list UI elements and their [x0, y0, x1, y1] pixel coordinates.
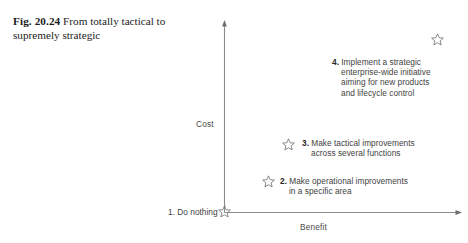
data-point-label-4-line-3: aiming for new products: [332, 77, 431, 87]
star-icon: [262, 175, 275, 188]
star-marker-2[interactable]: [262, 175, 275, 188]
star-icon: [431, 33, 444, 46]
data-point-label-1-line-1: 1. Do nothing: [168, 207, 218, 217]
data-point-label-4-line-1: 4. Implement a strategic: [332, 57, 431, 67]
star-marker-3[interactable]: [282, 138, 295, 151]
star-marker-4[interactable]: [431, 33, 444, 46]
data-point-label-2-text: Make operational improvements: [289, 176, 408, 186]
star-icon: [218, 205, 231, 218]
data-point-number-3: 3.: [302, 138, 309, 148]
star-icon: [282, 138, 295, 151]
star-marker-1[interactable]: [218, 205, 231, 218]
data-point-number-4: 4.: [332, 57, 339, 67]
data-point-label-3-line-2: across several functions: [302, 148, 415, 158]
data-point-label-1: 1. Do nothing: [168, 207, 218, 217]
data-point-label-4-text: Implement a strategic: [341, 57, 421, 67]
data-point-label-3: 3. Make tactical improvements across sev…: [302, 138, 415, 158]
chart-axes: [0, 0, 468, 243]
data-point-label-4: 4. Implement a strategic enterprise-wide…: [332, 57, 431, 98]
data-point-label-3-text: Make tactical improvements: [311, 138, 414, 148]
x-axis-label: Benefit: [300, 222, 327, 232]
y-axis-arrowhead-icon: [222, 20, 227, 27]
y-axis-label: Cost: [196, 119, 214, 129]
x-axis-arrowhead-icon: [456, 210, 463, 215]
data-point-label-4-line-4: and lifecycle control: [332, 88, 431, 98]
data-point-label-2: 2. Make operational improvements in a sp…: [280, 176, 408, 196]
data-point-label-3-line-1: 3. Make tactical improvements: [302, 138, 415, 148]
data-point-label-4-line-2: enterprise-wide initiative: [332, 67, 431, 77]
data-point-label-2-line-2: in a specific area: [280, 186, 408, 196]
scatter-chart: Cost Benefit 1. Do nothing 2. Make opera…: [0, 0, 468, 243]
data-point-number-2: 2.: [280, 176, 287, 186]
data-point-label-2-line-1: 2. Make operational improvements: [280, 176, 408, 186]
